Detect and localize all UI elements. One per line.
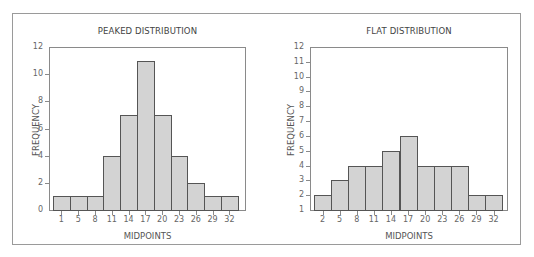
- x-tick-label: 8: [349, 216, 365, 224]
- histogram-bar: [221, 196, 239, 211]
- y-tick-label: 12: [288, 43, 304, 51]
- y-tick-mark: [306, 136, 310, 137]
- y-tick-mark: [45, 74, 49, 75]
- histogram-bar: [348, 166, 366, 211]
- histogram-bar: [468, 195, 486, 211]
- y-tick-label: 10: [288, 73, 304, 81]
- chart-title: FLAT DISTRIBUTION: [310, 26, 508, 36]
- x-tick-label: 5: [70, 216, 86, 224]
- y-tick-mark: [45, 101, 49, 102]
- histogram-bar: [382, 151, 400, 211]
- histogram-bar: [103, 156, 121, 211]
- histogram-bar: [314, 195, 332, 211]
- y-tick-label: 6: [27, 125, 43, 133]
- y-tick-mark: [45, 129, 49, 130]
- y-tick-mark: [306, 106, 310, 107]
- x-tick-label: 29: [468, 216, 484, 224]
- y-tick-label: 4: [27, 152, 43, 160]
- x-tick-label: 11: [104, 216, 120, 224]
- histogram-bar: [171, 156, 189, 211]
- x-tick-label: 29: [205, 216, 221, 224]
- histogram-bar: [204, 196, 222, 211]
- x-tick-label: 26: [188, 216, 204, 224]
- y-tick-mark: [306, 195, 310, 196]
- y-tick-label: 8: [288, 102, 304, 110]
- histogram-bar: [400, 136, 418, 211]
- y-tick-label: 11: [288, 58, 304, 66]
- x-tick-label: 20: [154, 216, 170, 224]
- y-tick-label: 10: [27, 70, 43, 78]
- y-tick-label: 9: [288, 87, 304, 95]
- y-tick-mark: [306, 121, 310, 122]
- x-tick-label: 26: [451, 216, 467, 224]
- histogram-bar: [365, 166, 383, 211]
- x-tick-label: 8: [87, 216, 103, 224]
- x-axis-label: MIDPOINTS: [310, 231, 508, 241]
- y-tick-label: 5: [288, 147, 304, 155]
- histogram-bar: [137, 61, 155, 211]
- y-tick-label: 8: [27, 97, 43, 105]
- x-tick-label: 17: [137, 216, 153, 224]
- y-tick-label: 7: [288, 117, 304, 125]
- y-tick-label: 0: [27, 206, 43, 214]
- y-tick-label: 12: [27, 43, 43, 51]
- histogram-bar: [154, 115, 172, 211]
- y-tick-mark: [306, 151, 310, 152]
- x-tick-label: 23: [434, 216, 450, 224]
- y-tick-mark: [45, 156, 49, 157]
- x-tick-label: 23: [171, 216, 187, 224]
- x-tick-label: 17: [400, 216, 416, 224]
- histogram-bar: [87, 196, 105, 211]
- y-tick-mark: [45, 183, 49, 184]
- histogram-bar: [53, 196, 71, 211]
- y-tick-mark: [306, 166, 310, 167]
- x-tick-label: 14: [121, 216, 137, 224]
- x-tick-label: 1: [53, 216, 69, 224]
- histogram-bar: [434, 166, 452, 211]
- x-tick-label: 20: [417, 216, 433, 224]
- x-tick-label: 32: [221, 216, 237, 224]
- x-tick-label: 11: [366, 216, 382, 224]
- y-tick-mark: [306, 180, 310, 181]
- histogram-bar: [331, 180, 349, 211]
- y-tick-mark: [306, 62, 310, 63]
- x-tick-label: 5: [332, 216, 348, 224]
- y-tick-label: 1: [288, 206, 304, 214]
- histogram-bar: [417, 166, 435, 211]
- y-tick-mark: [306, 91, 310, 92]
- y-tick-label: 6: [288, 132, 304, 140]
- histogram-bar: [187, 183, 205, 211]
- y-tick-label: 2: [27, 179, 43, 187]
- x-tick-label: 14: [383, 216, 399, 224]
- y-tick-label: 4: [288, 162, 304, 170]
- y-tick-label: 2: [288, 191, 304, 199]
- histogram-bar: [451, 166, 469, 211]
- x-tick-label: 32: [486, 216, 502, 224]
- chart-title: PEAKED DISTRIBUTION: [49, 26, 246, 36]
- histogram-bar: [70, 196, 88, 211]
- histogram-bar: [120, 115, 138, 211]
- y-tick-mark: [306, 77, 310, 78]
- y-tick-label: 3: [288, 176, 304, 184]
- x-tick-label: 2: [315, 216, 331, 224]
- histogram-bar: [485, 195, 503, 211]
- x-axis-label: MIDPOINTS: [49, 231, 246, 241]
